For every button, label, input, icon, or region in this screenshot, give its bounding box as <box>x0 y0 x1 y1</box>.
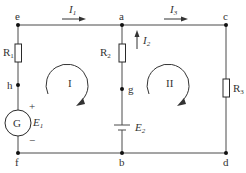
loop-ii-arrowhead-icon <box>177 98 186 106</box>
node-d-label: d <box>223 156 229 168</box>
e1-plus-sign: + <box>29 100 35 112</box>
resistor-r1-label: R1 <box>3 46 14 60</box>
node-a-label: a <box>119 10 124 22</box>
node-e <box>16 23 20 27</box>
e1-minus-sign: − <box>29 134 35 146</box>
node-e-label: e <box>15 10 20 22</box>
resistor-r2-label: R2 <box>100 46 111 60</box>
current-i3-arrowhead-icon <box>181 17 188 22</box>
node-h <box>16 83 20 87</box>
current-i1-arrowhead-icon <box>79 17 86 22</box>
node-g <box>120 87 124 91</box>
circuit-diagram: R1 R2 R3 G + − E1 E2 e a c h g f b d I1 … <box>0 0 246 173</box>
e2-label: E2 <box>134 121 146 135</box>
e1-label: E1 <box>32 116 43 130</box>
resistor-r2 <box>119 44 126 62</box>
current-i2-arrowhead-icon <box>135 30 140 37</box>
node-f-label: f <box>15 156 19 168</box>
node-c-label: c <box>223 10 228 22</box>
node-b-label: b <box>119 156 125 168</box>
node-g-label: g <box>128 83 134 95</box>
node-b <box>120 151 124 155</box>
resistor-r3 <box>223 79 230 97</box>
resistor-r3-label: R3 <box>233 82 244 96</box>
current-i2-label: I2 <box>142 34 151 48</box>
loop-i-label: I <box>68 77 72 89</box>
current-i3-label: I3 <box>169 3 178 17</box>
resistor-r1 <box>15 44 22 62</box>
loop-ii-label: II <box>166 77 174 89</box>
node-h-label: h <box>7 79 13 91</box>
node-d <box>224 151 228 155</box>
generator-g-label: G <box>13 117 21 129</box>
loop-i-arrowhead-icon <box>76 98 85 106</box>
node-a <box>120 23 124 27</box>
node-c <box>224 23 228 27</box>
node-f <box>16 151 20 155</box>
current-i1-label: I1 <box>68 3 76 17</box>
